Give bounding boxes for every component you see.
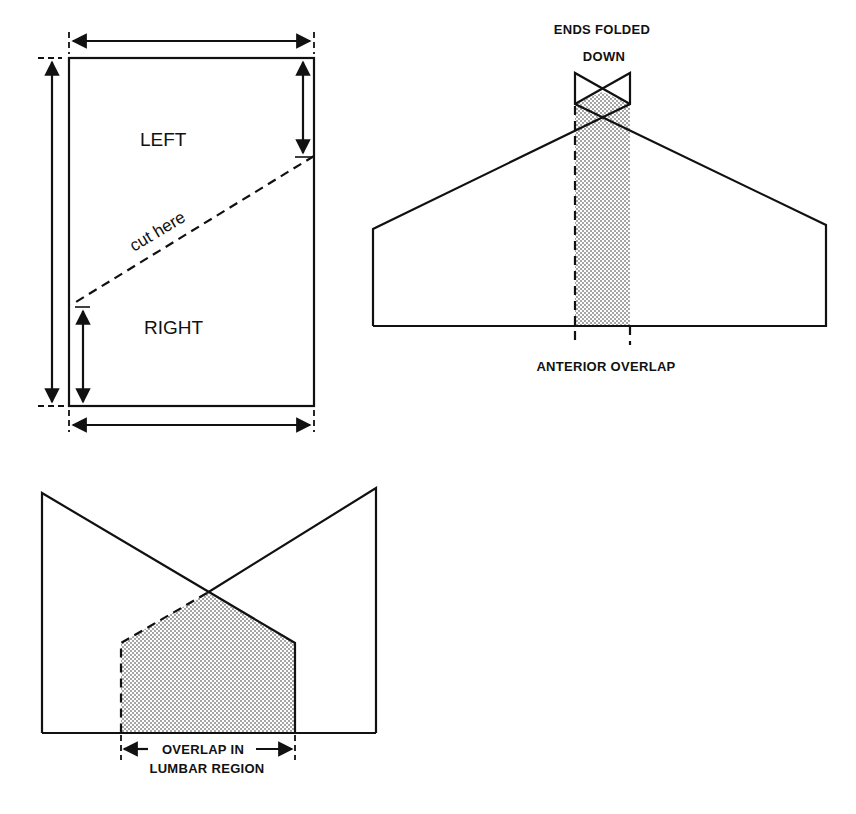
lumbar-panel	[42, 488, 376, 760]
label-lumbar-region: LUMBAR REGION	[149, 761, 264, 776]
cut-line	[71, 156, 314, 305]
lumbar-overlap-shading	[121, 593, 295, 733]
anterior-panel	[373, 73, 826, 345]
label-right: RIGHT	[144, 317, 204, 338]
fabric-rectangle	[69, 58, 314, 406]
label-anterior-overlap: ANTERIOR OVERLAP	[536, 359, 675, 374]
rectangle-panel	[38, 32, 314, 432]
label-overlap-in: OVERLAP IN	[162, 742, 244, 757]
label-ends-folded: ENDS FOLDED	[554, 22, 650, 37]
label-left: LEFT	[140, 129, 187, 150]
label-cut-here: cut here	[126, 207, 188, 255]
label-down: DOWN	[583, 49, 625, 64]
diagram-canvas: LEFT RIGHT cut here ENDS FOLDED DOWN ANT…	[0, 0, 856, 814]
